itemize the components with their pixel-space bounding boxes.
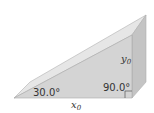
base-label: x0 — [71, 99, 82, 112]
wedge-diagram: 30.0° 90.0° y0 x0 — [0, 0, 154, 113]
right-angle-label: 90.0° — [103, 82, 130, 93]
angle-label: 30.0° — [33, 87, 60, 98]
height-subscript: 0 — [127, 58, 132, 66]
base-subscript: 0 — [77, 104, 82, 112]
